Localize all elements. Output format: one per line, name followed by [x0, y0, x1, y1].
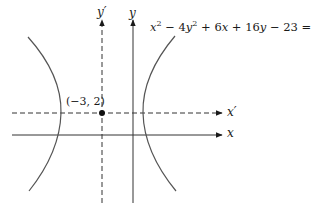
center-point [99, 110, 105, 116]
x-prime-axis-label: x′ [227, 106, 237, 118]
y-axis-label: y [129, 7, 136, 19]
x-axis-label: x [227, 127, 234, 139]
hyperbola-left-branch [28, 37, 61, 191]
eq-part-4: − 23 = 0 [266, 20, 314, 34]
hyperbola-equation: x2 − 4y2 + 6x + 16y − 23 = 0 [150, 20, 314, 33]
eq-part-1: − 4 [162, 20, 186, 34]
eq-part-3: + 16 [228, 20, 260, 34]
hyperbola-diagram: y′ y x′ x (−3, 2) x2 − 4y2 + 6x + 16y − … [0, 0, 314, 210]
center-point-label: (−3, 2) [66, 96, 105, 107]
y-prime-axis-label: y′ [97, 6, 107, 18]
eq-part-2: + 6 [197, 20, 221, 34]
